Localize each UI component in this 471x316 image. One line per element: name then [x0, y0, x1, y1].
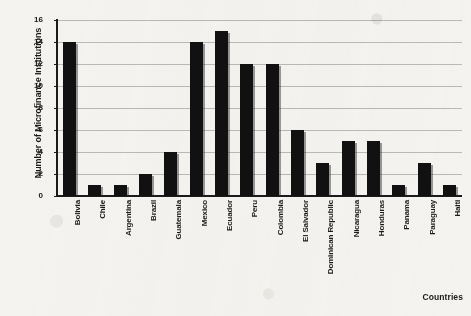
- y-tick-mark: [54, 108, 58, 109]
- category-label: Haiti: [453, 200, 462, 217]
- category-label: Peru: [250, 200, 259, 217]
- y-tick-label: 14: [25, 38, 43, 46]
- category-label: Ecuador: [225, 200, 234, 231]
- y-tick-label: 0: [25, 192, 43, 200]
- category-label: Guatemala: [174, 200, 183, 240]
- bar: [266, 64, 279, 196]
- category-label: Brazil: [149, 200, 158, 221]
- y-tick-mark: [54, 152, 58, 153]
- y-tick-label: 10: [25, 82, 43, 90]
- category-label: Nicaragua: [352, 200, 361, 237]
- bar: [164, 152, 177, 196]
- bar: [316, 163, 329, 196]
- y-tick-mark: [54, 196, 58, 197]
- y-tick-mark: [54, 42, 58, 43]
- gridline: [57, 20, 462, 21]
- category-label: Mexico: [200, 200, 209, 226]
- bar: [418, 163, 431, 196]
- y-tick-label: 4: [25, 148, 43, 156]
- bar: [367, 141, 380, 196]
- plot-area: 0246810121416: [57, 20, 462, 196]
- y-tick-mark: [54, 86, 58, 87]
- gridline: [57, 174, 462, 175]
- category-label: Paraguay: [428, 200, 437, 235]
- gridline: [57, 64, 462, 65]
- bar: [291, 130, 304, 196]
- bar: [240, 64, 253, 196]
- bar: [114, 185, 127, 196]
- bar: [88, 185, 101, 196]
- bar: [63, 42, 76, 196]
- y-tick-mark: [54, 174, 58, 175]
- y-tick-label: 16: [25, 16, 43, 24]
- gridline: [57, 86, 462, 87]
- category-label: Panama: [402, 200, 411, 230]
- bar: [139, 174, 152, 196]
- gridline: [57, 152, 462, 153]
- x-axis-category-labels: BoliviaChileArgentinaBrazilGuatemalaMexi…: [57, 200, 462, 310]
- category-label: Dominican Republic: [326, 200, 335, 274]
- bar: [392, 185, 405, 196]
- bar-chart-figure: Number of Microfinance Institutions 0246…: [0, 0, 471, 316]
- y-tick-label: 12: [25, 60, 43, 68]
- category-label: Argentina: [124, 200, 133, 236]
- category-label: Chile: [98, 200, 107, 219]
- category-label: Colombia: [276, 200, 285, 235]
- y-tick-label: 8: [25, 104, 43, 112]
- y-tick-label: 6: [25, 126, 43, 134]
- gridline: [57, 42, 462, 43]
- category-label: Honduras: [377, 200, 386, 236]
- bar: [215, 31, 228, 196]
- y-tick-label: 2: [25, 170, 43, 178]
- category-label: Bolivia: [73, 200, 82, 225]
- gridline: [57, 130, 462, 131]
- y-tick-mark: [54, 64, 58, 65]
- y-tick-mark: [54, 20, 58, 21]
- x-axis-title: Countries: [422, 292, 463, 302]
- y-tick-mark: [54, 130, 58, 131]
- bar: [342, 141, 355, 196]
- gridline: [57, 108, 462, 109]
- bar: [443, 185, 456, 196]
- category-label: El Salvador: [301, 200, 310, 242]
- bar: [190, 42, 203, 196]
